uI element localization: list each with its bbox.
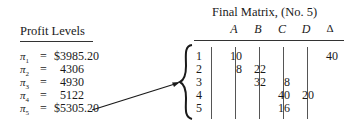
curly-brace-icon	[180, 45, 192, 119]
brace-and-arrow	[0, 0, 345, 121]
arrow-head-icon	[172, 82, 180, 87]
arrow-line	[92, 83, 178, 110]
